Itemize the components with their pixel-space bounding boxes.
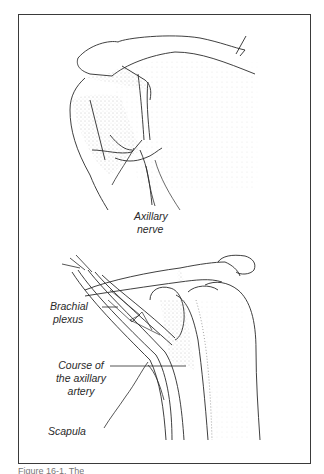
- label-line: Brachial: [50, 300, 102, 313]
- bottom-shoulder-drawing: [62, 255, 260, 440]
- figure-caption: Figure 16-1. The: [18, 467, 84, 474]
- stipple-shading: [150, 62, 260, 182]
- shoulder-anatomy-illustration: [0, 0, 324, 474]
- label-line: the axillary: [52, 372, 110, 385]
- label-line: Axillary: [134, 210, 168, 223]
- label-line: artery: [52, 385, 110, 398]
- label-axillary-nerve: Axillary nerve: [134, 210, 168, 236]
- label-brachial-plexus: Brachial plexus: [50, 300, 102, 326]
- label-scapula: Scapula: [48, 425, 86, 438]
- label-axillary-artery: Course of the axillary artery: [52, 359, 110, 398]
- label-line: Scapula: [48, 425, 86, 438]
- label-line: plexus: [50, 313, 102, 326]
- label-line: nerve: [134, 223, 168, 236]
- label-line: Course of: [52, 359, 110, 372]
